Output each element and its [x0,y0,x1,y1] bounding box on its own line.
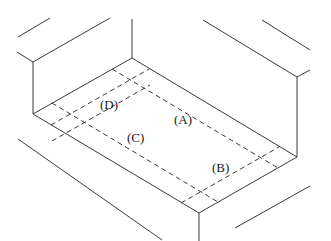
dashed-inner-right-cross [181,147,279,203]
region-label-b: (B) [212,160,229,175]
floor-back-right-edge [132,58,297,157]
left-wall-end-edge [17,52,33,62]
right-wall-top-edge [203,20,297,77]
region-label-d: (D) [100,97,118,112]
left-wall-back-top-edge [18,18,50,37]
region-label-a: (A) [174,112,192,127]
right-wall-back-top-edge [262,20,310,50]
left-wall-top-edge [33,18,110,62]
dashed-inner-back-long [112,69,278,168]
lower-step-right-edge [235,186,310,228]
right-wall [203,20,310,157]
floor-outline [33,58,297,241]
isometric-floor-diagram: (D) (A) (C) (B) [0,0,331,241]
floor-front-left-edge [33,114,199,213]
lower-step-left-edge [18,139,162,240]
right-wall-end-edge [297,70,310,77]
region-label-c: (C) [127,130,144,145]
floor-divisions [51,69,279,203]
